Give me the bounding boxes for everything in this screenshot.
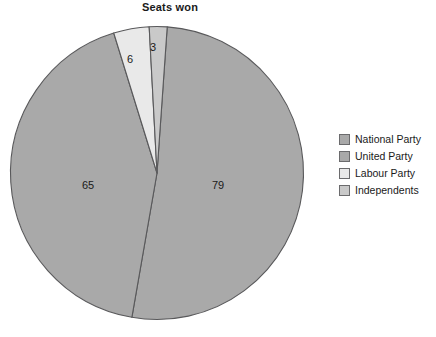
legend-color-swatch-icon <box>339 185 350 196</box>
pie-plot-area: 796563 <box>0 0 320 337</box>
legend-item[interactable]: Independents <box>339 182 436 199</box>
legend-item[interactable]: National Party <box>339 131 436 148</box>
legend-color-swatch-icon <box>339 151 350 162</box>
pie-slice-value-label: 6 <box>127 53 133 65</box>
pie-chart-figure: Seats won 796563 National PartyUnited Pa… <box>0 0 436 337</box>
pie-slices-group <box>10 27 303 320</box>
legend-color-swatch-icon <box>339 134 350 145</box>
pie-slice-value-label: 3 <box>150 41 156 53</box>
legend-item[interactable]: United Party <box>339 148 436 165</box>
legend-item-label: Independents <box>355 185 419 196</box>
legend-item-label: National Party <box>355 134 421 145</box>
pie-svg: 796563 <box>0 0 320 337</box>
pie-slice-value-label: 79 <box>212 179 224 191</box>
chart-legend: National PartyUnited PartyLabour PartyIn… <box>339 131 436 199</box>
pie-slice-value-label: 65 <box>82 179 94 191</box>
legend-item[interactable]: Labour Party <box>339 165 436 182</box>
legend-color-swatch-icon <box>339 168 350 179</box>
legend-item-label: Labour Party <box>355 168 415 179</box>
legend-item-label: United Party <box>355 151 413 162</box>
